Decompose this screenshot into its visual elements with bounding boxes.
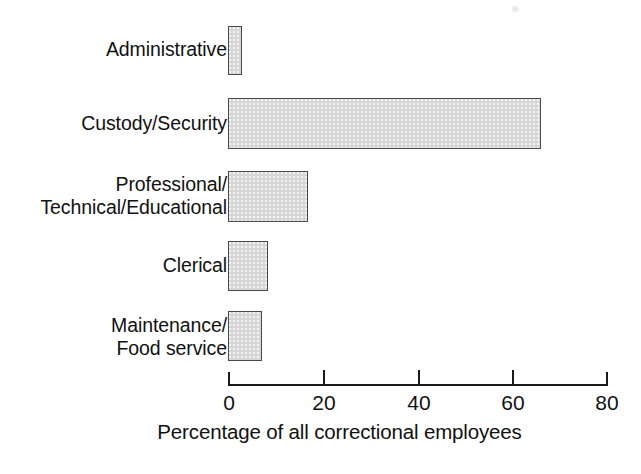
bar-administrative <box>228 26 242 75</box>
x-axis-tick-40 <box>418 370 420 386</box>
x-axis-tick-label-80: 80 <box>577 390 637 415</box>
bar-maintenance-food-service <box>228 311 262 361</box>
bar-clerical <box>228 241 268 291</box>
bar-custody-security <box>228 98 541 149</box>
bar-label-administrative: Administrative <box>7 38 227 61</box>
x-axis-tick-label-20: 20 <box>294 390 354 415</box>
x-axis-tick-label-0: 0 <box>199 390 259 415</box>
x-axis-tick-80 <box>606 372 608 386</box>
x-axis-tick-label-60: 60 <box>483 390 543 415</box>
x-axis-tick-60 <box>512 370 514 386</box>
bar-professional-technical-educational <box>228 171 308 222</box>
bar-label-clerical: Clerical <box>7 254 227 277</box>
x-axis-tick-20 <box>323 370 325 386</box>
bar-label-custody-security: Custody/Security <box>7 112 227 135</box>
x-axis-title: Percentage of all correctional employees <box>0 419 641 444</box>
bar-chart: Administrative Custody/Security Professi… <box>0 0 641 474</box>
plot-area: Administrative Custody/Security Professi… <box>0 0 641 474</box>
bar-label-maintenance-food-service: Maintenance/ Food service <box>7 314 227 360</box>
bar-label-professional-technical-educational: Professional/ Technical/Educational <box>7 173 227 219</box>
x-axis-tick-label-40: 40 <box>389 390 449 415</box>
x-axis-tick-0 <box>228 372 230 386</box>
